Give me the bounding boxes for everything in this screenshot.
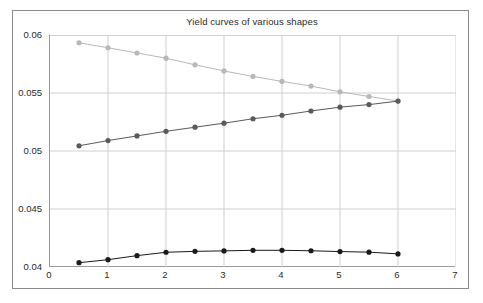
data-point-marker — [395, 251, 400, 256]
data-point-marker — [105, 138, 110, 143]
data-point-marker — [279, 79, 284, 84]
data-point-marker — [337, 89, 342, 94]
data-point-marker — [308, 248, 313, 253]
data-point-marker — [250, 74, 255, 79]
data-point-marker — [134, 50, 139, 55]
series-line — [79, 250, 398, 262]
data-point-marker — [105, 257, 110, 262]
data-point-marker — [279, 113, 284, 118]
data-point-marker — [366, 94, 371, 99]
data-point-marker — [366, 102, 371, 107]
data-point-marker — [337, 249, 342, 254]
data-point-marker — [395, 99, 400, 104]
x-axis-tick-5: 5 — [324, 269, 354, 280]
data-point-marker — [134, 253, 139, 258]
data-point-marker — [76, 260, 81, 265]
data-point-marker — [192, 249, 197, 254]
x-axis-tick-2: 2 — [150, 269, 180, 280]
data-point-marker — [105, 45, 110, 50]
data-point-marker — [163, 56, 168, 61]
data-point-marker — [221, 121, 226, 126]
gridlines — [50, 35, 456, 267]
data-series — [76, 40, 400, 104]
data-point-marker — [337, 105, 342, 110]
x-axis-tick-1: 1 — [92, 269, 122, 280]
data-point-marker — [366, 250, 371, 255]
data-point-marker — [76, 40, 81, 45]
data-point-marker — [163, 129, 168, 134]
data-point-marker — [250, 248, 255, 253]
data-series — [76, 99, 400, 149]
data-point-marker — [134, 133, 139, 138]
x-axis-tick-6: 6 — [382, 269, 412, 280]
data-point-marker — [163, 250, 168, 255]
data-point-marker — [250, 116, 255, 121]
data-point-marker — [279, 248, 284, 253]
data-point-marker — [76, 143, 81, 148]
data-point-marker — [192, 62, 197, 67]
series-line — [79, 43, 398, 101]
data-point-marker — [221, 68, 226, 73]
data-point-marker — [221, 248, 226, 253]
x-axis-tick-7: 7 — [440, 269, 470, 280]
data-point-marker — [308, 108, 313, 113]
plot-area — [49, 35, 455, 267]
data-point-marker — [308, 83, 313, 88]
data-series — [76, 248, 400, 266]
x-axis-tick-3: 3 — [208, 269, 238, 280]
series-line — [79, 101, 398, 146]
plot-canvas — [50, 35, 456, 267]
chart-figure: Yield curves of various shapes 0.06 0.05… — [0, 0, 483, 303]
data-series-group — [76, 40, 400, 265]
data-point-marker — [192, 125, 197, 130]
x-axis-tick-4: 4 — [266, 269, 296, 280]
x-axis-tick-0: 0 — [34, 269, 64, 280]
